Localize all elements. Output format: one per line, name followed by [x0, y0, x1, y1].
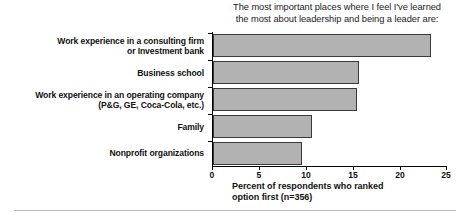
category-label-line: Business school: [8, 68, 204, 78]
category-label-line: Work experience in an operating company: [8, 90, 204, 100]
bar-operating-company[interactable]: [213, 88, 357, 111]
x-axis-title-line-2: option first (n=356): [232, 192, 462, 203]
category-label-line: Work experience in a consulting firm: [8, 36, 204, 46]
category-label: Business school: [8, 68, 204, 78]
bar-consulting-firm[interactable]: [213, 34, 431, 57]
bar-row: Family: [0, 114, 470, 141]
bar-row: Work experience in a consulting firm or …: [0, 33, 470, 60]
category-label: Work experience in a consulting firm or …: [8, 36, 204, 56]
category-label-line: (P&G, GE, Coca-Cola, etc.): [8, 100, 204, 110]
y-axis-tick: [208, 114, 212, 115]
y-axis-tick: [208, 33, 212, 34]
bar-row: Nonprofit organizations: [0, 141, 470, 167]
x-axis-title: Percent of respondents who ranked option…: [232, 181, 462, 203]
category-label-line: or Investment bank: [8, 46, 204, 56]
category-label: Family: [8, 122, 204, 132]
category-label-line: Nonprofit organizations: [8, 148, 204, 158]
bottom-divider: [14, 210, 456, 211]
x-axis-tick-label: 0: [200, 170, 224, 180]
x-axis-tick-label: 10: [294, 170, 318, 180]
bar-nonprofit-organizations[interactable]: [213, 142, 302, 165]
y-axis-tick: [208, 87, 212, 88]
x-axis-title-line-1: Percent of respondents who ranked: [232, 181, 462, 192]
bar-row: Business school: [0, 60, 470, 87]
bar-row: Work experience in an operating company …: [0, 87, 470, 114]
category-label: Work experience in an operating company …: [8, 90, 204, 110]
bar-business-school[interactable]: [213, 61, 359, 84]
y-axis-tick: [208, 60, 212, 61]
x-axis-tick-label: 25: [434, 170, 458, 180]
y-axis-tick: [208, 141, 212, 142]
category-label: Nonprofit organizations: [8, 148, 204, 158]
bar-chart-figure: The most important places where I feel I…: [0, 0, 470, 220]
x-axis-tick-label: 5: [247, 170, 271, 180]
category-label-line: Family: [8, 122, 204, 132]
bar-family[interactable]: [213, 115, 312, 138]
x-axis-tick-label: 20: [388, 170, 412, 180]
x-axis-tick-label: 15: [341, 170, 365, 180]
